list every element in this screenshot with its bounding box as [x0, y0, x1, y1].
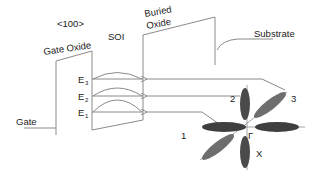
svg-text:E: E — [78, 91, 84, 102]
valley-ellipse-right — [255, 122, 299, 132]
soi-label: SOI — [108, 31, 124, 42]
soi-quantum-well — [92, 35, 143, 130]
svg-text:2: 2 — [85, 97, 89, 103]
valley-ellipse-top — [240, 88, 250, 120]
svg-text:3: 3 — [85, 80, 89, 86]
svg-text:1: 1 — [85, 113, 89, 119]
gate-label: Gate — [16, 116, 37, 127]
valley-label-1: 1 — [181, 130, 186, 141]
crystal-direction-label: <100> — [57, 18, 84, 29]
valley-ellipse-diag-upper — [251, 89, 289, 122]
gamma-point-label: Γ — [248, 130, 253, 141]
x-point-label: X — [256, 148, 263, 159]
valley-label-2: 2 — [230, 93, 235, 104]
svg-text:E: E — [78, 107, 84, 118]
valley-label-3: 3 — [291, 93, 296, 104]
svg-text:E: E — [78, 74, 84, 85]
valley-ellipses — [199, 85, 305, 170]
energy-label-e2: E 2 — [78, 91, 89, 103]
e2-wavefunction — [93, 88, 142, 96]
e1-wavefunction — [93, 100, 142, 112]
energy-label-e1: E 1 — [78, 107, 89, 119]
gate-oxide-label: Gate Oxide — [43, 39, 92, 57]
energy-label-e3: E 3 — [78, 74, 89, 86]
valley-ellipse-diag-lower — [199, 131, 237, 164]
valley-ellipse-left — [202, 122, 246, 132]
arrow-valley3-to-e3 — [146, 79, 285, 90]
substrate-pointer — [217, 39, 273, 50]
e3-wavefunction — [93, 73, 142, 80]
valley-arrows — [146, 79, 285, 126]
band-diagram: <100> Gate Oxide SOI Buried Oxide Substr… — [0, 0, 325, 181]
substrate-label: Substrate — [254, 28, 295, 39]
